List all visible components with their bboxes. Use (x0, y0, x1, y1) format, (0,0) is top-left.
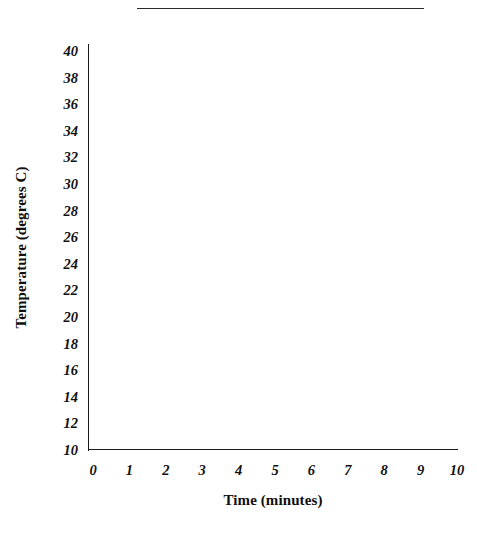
x-tick-label: 9 (401, 463, 441, 478)
x-tick-label: 0 (73, 463, 113, 478)
x-tick-label: 10 (437, 463, 477, 478)
x-tick-label: 4 (219, 463, 259, 478)
x-tick-label: 2 (146, 463, 186, 478)
y-axis-title: Temperature (degrees C) (14, 167, 31, 329)
x-tick-label: 1 (109, 463, 149, 478)
x-tick-label: 6 (291, 463, 331, 478)
x-axis-title: Time (minutes) (88, 492, 458, 509)
y-axis-title-wrapper: Temperature (degrees C) (0, 44, 44, 451)
x-tick-label: 5 (255, 463, 295, 478)
x-tick-label: 7 (328, 463, 368, 478)
x-tick-label: 8 (364, 463, 404, 478)
x-axis-tick-labels: 012345678910 (0, 0, 477, 536)
x-tick-label: 3 (182, 463, 222, 478)
chart-page: 40383634323028262422201816141210 0123456… (0, 0, 477, 536)
plot-frame: 40383634323028262422201816141210 0123456… (0, 0, 477, 536)
